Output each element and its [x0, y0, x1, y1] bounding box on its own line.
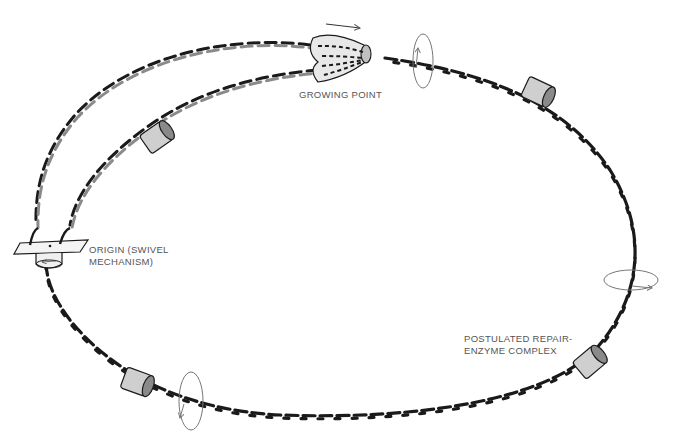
daughter-duplex-inner [70, 70, 320, 228]
rotation-arrow-icon-top [413, 34, 433, 88]
parental-duplex [46, 58, 635, 419]
growing-point-label: GROWING POINT [299, 89, 382, 101]
origin-swivel-icon [14, 228, 88, 268]
origin-label: ORIGIN (SWIVEL MECHANISM) [89, 244, 169, 268]
origin-label-line2: MECHANISM) [89, 256, 169, 268]
repair-enzyme-label-line2: ENZYME COMPLEX [464, 345, 573, 357]
growing-point-fork-icon [310, 24, 371, 82]
origin-label-line1: ORIGIN (SWIVEL [89, 244, 169, 256]
dna-replication-diagram [0, 0, 680, 448]
repair-enzyme-label-line1: POSTULATED REPAIR- [464, 333, 573, 345]
growing-point-text: GROWING POINT [299, 89, 382, 101]
repair-enzyme-label: POSTULATED REPAIR- ENZYME COMPLEX [464, 333, 573, 357]
